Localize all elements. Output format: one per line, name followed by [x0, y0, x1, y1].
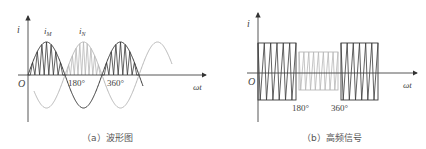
tick-360: 360° — [107, 78, 125, 88]
in-label: iN — [79, 26, 87, 37]
caption-a: （a）波形图 — [82, 131, 133, 144]
high-frequency-signal — [258, 43, 378, 100]
x-axis-label: ωt — [193, 82, 202, 92]
x-axis-label: ωt — [403, 80, 412, 90]
im-label: iM — [44, 26, 53, 37]
tick-360: 360° — [331, 103, 349, 113]
panel-b-high-frequency: i O ωt 180° 360° — [247, 13, 417, 122]
y-axis-label: i — [247, 18, 250, 29]
y-axis-label: i — [17, 24, 20, 35]
origin-label: O — [248, 76, 255, 87]
tick-180: 180° — [292, 103, 310, 113]
figure-canvas: i O ωt 180° 360° iM iN i O ωt 180° 360° — [0, 0, 426, 149]
caption-b: （b）高频信号 — [302, 131, 362, 144]
tick-180: 180° — [68, 78, 86, 88]
origin-label: O — [18, 78, 25, 89]
panel-a-waveform: i O ωt 180° 360° iM iN — [17, 16, 206, 122]
ibn-chopped-fill — [65, 42, 102, 75]
